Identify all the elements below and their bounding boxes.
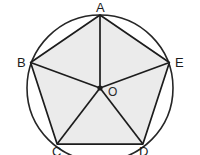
center-point-O xyxy=(97,85,102,90)
pentagon-in-circle-svg xyxy=(0,0,200,155)
vertex-label-C: C xyxy=(52,145,61,155)
geometry-figure: A B C D E O xyxy=(0,0,200,155)
vertex-label-A: A xyxy=(96,1,105,14)
vertex-label-B: B xyxy=(17,56,26,69)
vertex-label-D: D xyxy=(139,145,148,155)
vertex-label-E: E xyxy=(175,56,184,69)
center-label-O: O xyxy=(108,86,117,98)
